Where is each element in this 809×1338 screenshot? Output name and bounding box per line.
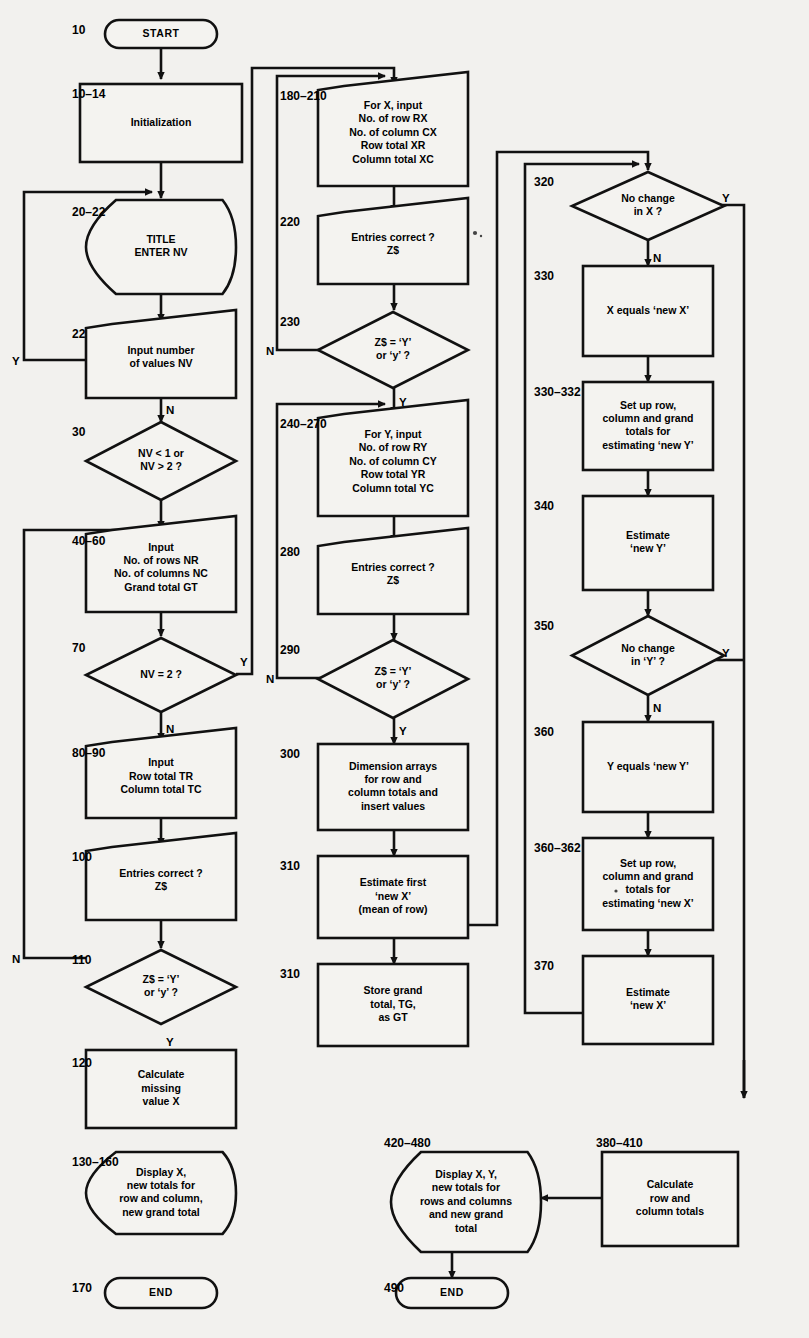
node-text-n4060: No. of rows NR <box>123 554 199 566</box>
node-text-n100: Z$ <box>155 880 167 892</box>
line-number-n2022: 20–22 <box>72 205 106 219</box>
branch-290-yes: Y <box>399 725 407 737</box>
node-n2022: 20–22TITLEENTER NV <box>72 200 236 294</box>
branch-230-yes: Y <box>399 396 407 408</box>
line-number-n1014: 10–14 <box>72 87 106 101</box>
node-n30: 30NV < 1 orNV > 2 ? <box>72 422 236 500</box>
branch-320-yes: Y <box>722 192 730 204</box>
node-text-n130160: new totals for <box>127 1179 195 1191</box>
line-number-n22: 22 <box>72 327 86 341</box>
node-n420480: 420–480Display X, Y,new totals forrows a… <box>384 1136 541 1252</box>
branch-110-no: N <box>12 953 20 965</box>
node-text-n240270: No. of column CY <box>349 455 437 467</box>
node-text-n330332: totals for <box>626 425 671 437</box>
node-text-n180210: Column total XC <box>352 153 434 165</box>
line-number-n230: 230 <box>280 315 300 329</box>
node-text-n380410: column totals <box>636 1205 704 1217</box>
node-n130160: 130–160Display X,new totals forrow and c… <box>72 1152 236 1234</box>
node-text-n360362: column and grand <box>602 870 693 882</box>
node-n370: 370Estimate‘new X’ <box>534 956 713 1044</box>
node-text-n180210: No. of column CX <box>349 126 437 138</box>
node-n340: 340Estimate‘new Y’ <box>534 496 713 590</box>
node-text-n300: Dimension arrays <box>349 760 437 772</box>
node-text-n420480: rows and columns <box>420 1195 512 1207</box>
node-text-n330332: estimating ‘new Y’ <box>602 439 693 451</box>
node-text-n230: or ‘y’ ? <box>376 349 410 361</box>
node-text-n320: No change <box>621 192 675 204</box>
paper-speck <box>614 889 617 892</box>
node-text-n240270: No. of row RY <box>359 441 427 453</box>
node-text-n300: for row and <box>364 773 421 785</box>
line-number-n280: 280 <box>280 545 300 559</box>
node-text-n320: in X ? <box>634 205 663 217</box>
node-text-n4060: No. of columns NC <box>114 567 208 579</box>
node-text-n100: Entries correct ? <box>119 867 202 879</box>
line-number-n8090: 80–90 <box>72 746 106 760</box>
node-text-n10: START <box>142 27 179 39</box>
node-text-n240270: Column total YC <box>352 482 434 494</box>
node-text-n420480: and new grand <box>429 1208 503 1220</box>
node-text-n290: Z$ = ‘Y’ <box>374 665 411 677</box>
node-n120: 120Calculatemissingvalue X <box>72 1050 236 1128</box>
node-text-n4060: Input <box>148 541 174 553</box>
node-text-n240270: Row total YR <box>361 468 426 480</box>
node-text-n370: Estimate <box>626 986 670 998</box>
node-text-n330332: column and grand <box>602 412 693 424</box>
line-number-n110: 110 <box>72 953 92 967</box>
node-text-n310a: Estimate first <box>360 876 427 888</box>
node-text-n420480: new totals for <box>432 1181 500 1193</box>
line-number-n290: 290 <box>280 643 300 657</box>
node-n330332: 330–332Set up row,column and grandtotals… <box>534 382 713 470</box>
branch-30-yes: Y <box>12 355 20 367</box>
node-text-n360362: estimating ‘new X’ <box>602 897 694 909</box>
node-n180210: 180–210For X, inputNo. of row RXNo. of c… <box>280 72 468 186</box>
line-number-n300: 300 <box>280 747 300 761</box>
node-text-n1014: Initialization <box>131 116 192 128</box>
line-number-n220: 220 <box>280 215 300 229</box>
node-text-n180210: For X, input <box>364 99 423 111</box>
node-text-n120: value X <box>143 1095 180 1107</box>
node-n240270: 240–270For Y, inputNo. of row RYNo. of c… <box>280 400 468 516</box>
node-n10: 10START <box>72 20 217 48</box>
node-text-n420480: total <box>455 1222 477 1234</box>
node-text-n380410: Calculate <box>647 1178 694 1190</box>
node-text-n230: Z$ = ‘Y’ <box>374 336 411 348</box>
node-text-n30: NV < 1 or <box>138 447 184 459</box>
node-text-n360362: Set up row, <box>620 857 676 869</box>
node-text-n22: Input number <box>127 344 194 356</box>
node-text-n300: column totals and <box>348 786 438 798</box>
node-text-n370: ‘new X’ <box>630 999 666 1011</box>
node-text-n330: X equals ‘new X’ <box>607 304 689 316</box>
node-text-n310b: Store grand <box>364 984 423 996</box>
node-n490: 490END <box>384 1278 508 1308</box>
node-text-n350: in ‘Y’ ? <box>631 655 665 667</box>
node-n320: 320No changein X ? <box>534 172 724 240</box>
node-n110: 110Z$ = ‘Y’or ‘y’ ? <box>72 950 236 1024</box>
node-text-n130160: Display X, <box>136 1166 186 1178</box>
line-number-n490: 490 <box>384 1281 404 1295</box>
node-text-n310a: ‘new X’ <box>375 890 411 902</box>
line-number-n330332: 330–332 <box>534 385 581 399</box>
branch-350-no: N <box>653 702 661 714</box>
node-text-n70: NV = 2 ? <box>140 668 182 680</box>
node-text-n8090: Input <box>148 756 174 768</box>
line-number-n180210: 180–210 <box>280 89 327 103</box>
node-n380410: 380–410Calculaterow andcolumn totals <box>596 1136 738 1246</box>
node-text-n310b: total, TG, <box>370 998 416 1010</box>
node-n8090: 80–90InputRow total TRColumn total TC <box>72 728 236 818</box>
node-text-n8090: Column total TC <box>120 783 201 795</box>
node-text-n360: Y equals ‘new Y’ <box>607 760 689 772</box>
line-number-n120: 120 <box>72 1056 92 1070</box>
node-text-n130160: row and column, <box>119 1192 203 1204</box>
line-number-n420480: 420–480 <box>384 1136 431 1150</box>
paper-speck <box>480 235 482 237</box>
node-text-n120: Calculate <box>138 1068 185 1080</box>
branch-290-no: N <box>266 673 274 685</box>
line-number-n360362: 360–362 <box>534 841 581 855</box>
line-number-n360: 360 <box>534 725 554 739</box>
node-n100: 100Entries correct ?Z$ <box>72 833 236 920</box>
node-n350: 350No changein ‘Y’ ? <box>534 616 724 695</box>
node-n70: 70NV = 2 ? <box>72 638 236 712</box>
node-text-n280: Entries correct ? <box>351 561 434 573</box>
node-n1014: 10–14Initialization <box>72 84 242 162</box>
